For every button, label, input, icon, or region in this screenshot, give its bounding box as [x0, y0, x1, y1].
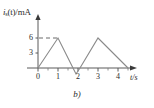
x-axis-label: t/s	[130, 73, 138, 82]
x-axis-ticks	[38, 68, 128, 72]
figure-caption: b)	[0, 89, 154, 99]
x-axis	[27, 65, 137, 70]
x-tick-label-3: 3	[93, 72, 103, 81]
figure-container: is(t)/mA	[0, 0, 154, 108]
y-axis-label-rest: (t)/mA	[7, 7, 30, 17]
y-tick-label-6: 6	[26, 33, 36, 42]
y-tick-label-3: 3	[26, 48, 36, 57]
waveform-series	[38, 38, 128, 74]
x-tick-label-4: 4	[113, 72, 123, 81]
y-axis-label: is(t)/mA	[3, 7, 31, 17]
x-tick-label-1: 1	[53, 72, 63, 81]
x-tick-label-0: 0	[33, 72, 43, 81]
y-axis	[35, 14, 40, 68]
x-tick-label-2: 2	[73, 72, 83, 81]
